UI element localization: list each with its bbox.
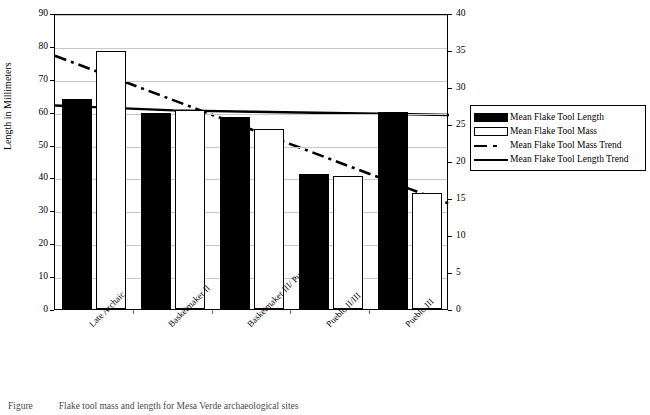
- y2-axis-tick-mark: [448, 199, 452, 200]
- y2-axis-tick-label: 15: [456, 194, 482, 204]
- y-axis-tick-label: 10: [22, 272, 48, 282]
- y2-axis-tick-label: 40: [456, 9, 482, 19]
- y-axis-tick-mark: [50, 146, 54, 147]
- bar-mean-flake-tool-mass: [96, 51, 126, 309]
- plot-area: [54, 14, 448, 310]
- legend-item-label: Mean Flake Tool Length Trend: [510, 154, 628, 165]
- y-axis-tick-label: 80: [22, 42, 48, 52]
- y2-axis-tick-label: 30: [456, 83, 482, 93]
- y2-axis-tick-label: 0: [456, 305, 482, 315]
- gridline: [55, 48, 447, 49]
- y2-axis-tick-label: 10: [456, 231, 482, 241]
- figure-caption: FigureFlake tool mass and length for Mes…: [8, 401, 298, 411]
- y2-axis-tick-mark: [448, 51, 452, 52]
- legend-item-label: Mean Flake Tool Mass: [510, 126, 597, 137]
- y-axis-tick-label: 60: [22, 108, 48, 118]
- legend-item-label: Mean Flake Tool Length: [510, 112, 604, 123]
- bar-mean-flake-tool-mass: [412, 193, 442, 309]
- figure-container: Length in Millimeters 010203040506070809…: [0, 0, 650, 415]
- y-axis-tick-label: 90: [22, 9, 48, 19]
- y2-axis-tick-mark: [448, 125, 452, 126]
- y-axis-tick-label: 70: [22, 75, 48, 85]
- bar-mean-flake-tool-length: [62, 99, 92, 309]
- y-axis-tick-mark: [50, 178, 54, 179]
- y2-axis-tick-mark: [448, 310, 452, 311]
- legend-item: Mean Flake Tool Length: [474, 110, 642, 124]
- solid-line-swatch-icon: [474, 155, 508, 164]
- y-axis-tick-mark: [50, 47, 54, 48]
- y-axis-tick-label: 40: [22, 173, 48, 183]
- figure-caption-text: Flake tool mass and length for Mesa Verd…: [59, 401, 299, 411]
- filled-square-swatch-icon: [474, 113, 508, 122]
- y2-axis-tick-mark: [448, 88, 452, 89]
- dash-dot-line-swatch-icon: [474, 141, 508, 150]
- bar-mean-flake-tool-length: [141, 113, 171, 309]
- y-axis-tick-mark: [50, 244, 54, 245]
- y2-axis-tick-mark: [448, 236, 452, 237]
- y-axis-tick-mark: [50, 80, 54, 81]
- y-axis-tick-label: 50: [22, 141, 48, 151]
- x-axis-tick-mark: [133, 310, 134, 314]
- y-axis-tick-mark: [50, 277, 54, 278]
- y2-axis-tick-label: 35: [456, 46, 482, 56]
- y2-axis-tick-mark: [448, 162, 452, 163]
- bar-mean-flake-tool-mass: [333, 176, 363, 309]
- bar-mean-flake-tool-length: [220, 117, 250, 309]
- y2-axis-tick-mark: [448, 14, 452, 15]
- y-axis-tick-mark: [50, 211, 54, 212]
- legend-item: Mean Flake Tool Mass Trend: [474, 138, 642, 152]
- y2-axis-tick-label: 5: [456, 268, 482, 278]
- x-axis-tick-mark: [369, 310, 370, 314]
- open-square-swatch-icon: [474, 127, 508, 136]
- y2-axis-tick-mark: [448, 273, 452, 274]
- legend-item: Mean Flake Tool Length Trend: [474, 152, 642, 166]
- y-axis-tick-mark: [50, 310, 54, 311]
- bar-mean-flake-tool-length: [378, 112, 408, 309]
- y-axis-tick-mark: [50, 113, 54, 114]
- bar-mean-flake-tool-mass: [254, 129, 284, 309]
- y-axis-tick-mark: [50, 14, 54, 15]
- bar-mean-flake-tool-length: [299, 174, 329, 309]
- figure-number: Figure: [8, 401, 33, 411]
- y-axis-tick-label: 20: [22, 239, 48, 249]
- gridline: [55, 15, 447, 16]
- bar-mean-flake-tool-mass: [175, 110, 205, 309]
- y-axis-title: Length in Millimeters: [2, 62, 13, 150]
- legend-item-label: Mean Flake Tool Mass Trend: [510, 140, 622, 151]
- legend-item: Mean Flake Tool Mass: [474, 124, 642, 138]
- legend: Mean Flake Tool Length Mean Flake Tool M…: [470, 105, 646, 171]
- y-axis-tick-label: 0: [22, 305, 48, 315]
- x-axis-tick-mark: [212, 310, 213, 314]
- y-axis-tick-label: 30: [22, 206, 48, 216]
- x-axis-tick-mark: [290, 310, 291, 314]
